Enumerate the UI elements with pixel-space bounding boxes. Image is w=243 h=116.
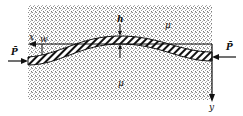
thickness-label: h (117, 15, 124, 24)
y-axis-label: y (209, 103, 214, 112)
medium-bottom-label: μ (118, 79, 124, 88)
force-right-label: P̄ (226, 43, 233, 52)
force-left-label: P̄ (11, 48, 18, 57)
medium-top-label: μ (165, 21, 171, 30)
force-right-arrowhead-icon (212, 54, 219, 60)
deflection-label: w (40, 35, 48, 44)
force-left-arrowhead-icon (21, 58, 28, 64)
x-axis-label: x (29, 33, 34, 42)
